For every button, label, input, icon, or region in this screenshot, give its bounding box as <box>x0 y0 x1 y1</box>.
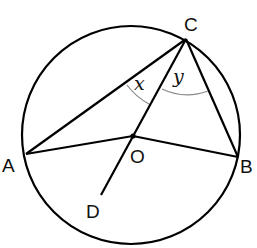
center-point-o <box>130 133 135 138</box>
label-point-b: B <box>240 156 253 177</box>
label-point-o: O <box>130 146 145 167</box>
label-point-c: C <box>184 14 198 35</box>
segment-ao <box>26 136 133 154</box>
label-angle-x: x <box>134 72 145 94</box>
segment-cb <box>186 39 238 157</box>
segment-ac <box>26 39 186 154</box>
angle-arc-y <box>162 89 208 95</box>
label-point-d: D <box>86 201 100 222</box>
geometry-diagram: A B C O D x y <box>0 0 257 248</box>
segment-ob <box>133 136 238 157</box>
label-angle-y: y <box>172 65 184 87</box>
segment-cd <box>101 39 186 195</box>
label-point-a: A <box>2 155 15 176</box>
